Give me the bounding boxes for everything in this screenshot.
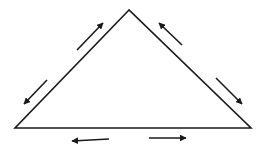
arrows-group [24, 23, 242, 141]
triangle [15, 10, 251, 128]
arrow-left-side-up-icon [77, 23, 103, 50]
arrow-left-side-down-icon [24, 80, 47, 104]
arrow-right-side-down-icon [216, 78, 242, 104]
triangle-diagram [0, 0, 268, 153]
arrow-bottom-left-icon [72, 139, 109, 141]
